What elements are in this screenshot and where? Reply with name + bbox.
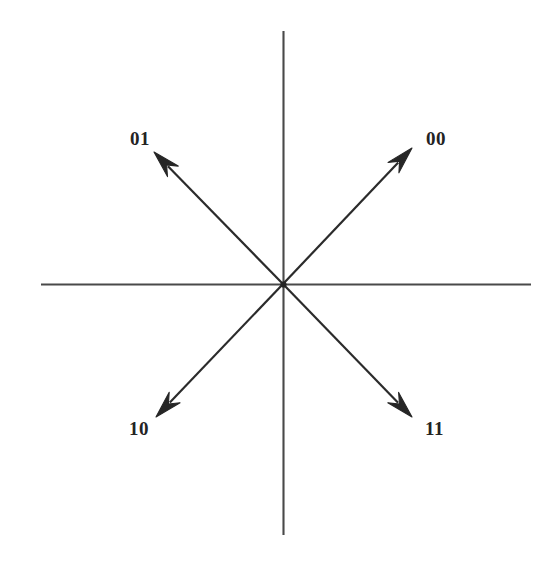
vector-label-10: 10 xyxy=(129,419,149,438)
vector-11-shaft xyxy=(283,284,398,403)
origin-point xyxy=(280,281,286,287)
vector-00 xyxy=(283,148,412,284)
vector-01-shaft xyxy=(168,166,283,284)
vector-01 xyxy=(154,152,283,284)
vector-label-01: 01 xyxy=(130,129,150,148)
vector-00-shaft xyxy=(283,163,398,284)
vector-11 xyxy=(283,284,412,417)
vector-10-shaft xyxy=(170,284,283,403)
constellation-figure: 01 00 10 11 xyxy=(0,0,559,567)
vector-10 xyxy=(156,284,283,417)
constellation-diagram-canvas xyxy=(0,0,559,567)
vector-label-00: 00 xyxy=(426,129,446,148)
vector-label-11: 11 xyxy=(425,419,444,438)
